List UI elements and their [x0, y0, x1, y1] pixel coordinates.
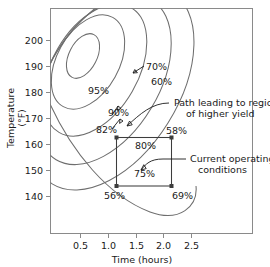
y-tick-label: 140 [25, 191, 43, 202]
y-axis-tick-labels: 200 190 180 170 160 150 140 [25, 35, 43, 202]
corner-marker-top-right [170, 136, 174, 140]
y-tick-label: 160 [25, 139, 43, 150]
contour-label-58: 58% [166, 125, 187, 136]
y-axis-title: Temperature [5, 88, 16, 149]
y-tick-label: 200 [25, 35, 43, 46]
x-axis-ticks [81, 234, 192, 239]
y-tick-label: 170 [25, 113, 43, 124]
contour-label-90: 90% [108, 107, 129, 118]
path-callout-line2: of higher yield [186, 108, 254, 119]
x-tick-label: 1.5 [129, 240, 144, 251]
contour-label-82: 82% [96, 124, 117, 135]
plot-frame [51, 9, 253, 234]
y-tick-label: 180 [25, 87, 43, 98]
contour-82 [22, 0, 168, 154]
x-tick-label: 2.5 [184, 240, 199, 251]
x-axis-tick-labels: 0.5 1.0 1.5 2.0 2.5 [73, 240, 199, 251]
contour-label-60: 60% [151, 76, 172, 87]
contour-label-75: 75% [134, 168, 155, 179]
y-tick-label: 150 [25, 165, 43, 176]
contour-label-70: 70% [146, 61, 167, 72]
contour-labels: 95% 90% 82% 70% 60% 58% 80% 75% 56% 69% [88, 61, 193, 201]
corner-marker-bottom-right [170, 184, 174, 188]
operating-callout-line1: Current operating [190, 153, 270, 164]
path-callout: Path leading to region of higher yield [127, 97, 270, 126]
operating-callout: Current operating conditions [141, 153, 270, 175]
y-axis-ticks [46, 41, 51, 197]
chart-canvas: 200 190 180 170 160 150 140 0.5 1.0 1.5 … [0, 0, 270, 267]
x-tick-label: 1.0 [101, 240, 116, 251]
x-tick-label: 2.0 [156, 240, 171, 251]
operating-callout-line2: conditions [198, 164, 247, 175]
contour-plot-figure: 200 190 180 170 160 150 140 0.5 1.0 1.5 … [0, 0, 270, 267]
pointer-82-arrowhead-icon [120, 119, 123, 123]
corner-marker-bottom-left [115, 184, 119, 188]
contour-label-56: 56% [104, 190, 125, 201]
path-callout-leader [127, 103, 169, 126]
x-axis-title: Time (hours) [111, 254, 172, 265]
x-tick-label: 0.5 [73, 240, 88, 251]
y-axis-title-units: (°F) [16, 109, 27, 127]
y-tick-label: 190 [25, 61, 43, 72]
contour-label-80: 80% [135, 140, 156, 151]
contour-label-69: 69% [172, 190, 193, 201]
contour-label-95: 95% [88, 85, 109, 96]
path-callout-line1: Path leading to region [174, 97, 270, 108]
corner-marker-top-left [115, 136, 119, 140]
